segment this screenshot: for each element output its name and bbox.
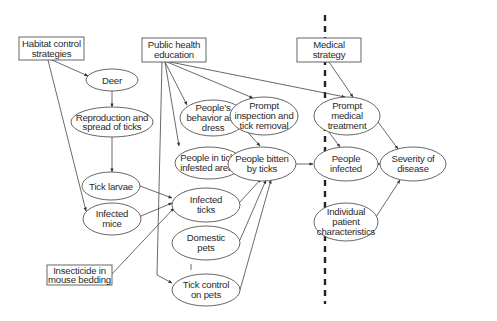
node-label: treatment: [328, 120, 367, 131]
node-tick-larvae: Tick larvae: [82, 172, 140, 200]
node-label: on pets: [191, 289, 221, 300]
edge-patient-severity: [376, 180, 400, 217]
node-label: characteristics: [317, 226, 376, 237]
node-habitat-control: Habitat control strategies: [19, 37, 84, 60]
node-label: Deer: [102, 75, 123, 86]
edge-public-infested: [165, 62, 179, 146]
node-label: pets: [197, 242, 215, 253]
node-label: strategies: [32, 48, 72, 59]
node-people-infected: People infected: [314, 147, 378, 181]
node-label: by ticks: [247, 163, 278, 174]
edge-public-inspection: [167, 62, 253, 98]
node-label: spread of ticks: [83, 121, 142, 132]
node-patient-characteristics: Individual patient characteristics: [314, 203, 378, 241]
node-label: strategy: [313, 49, 346, 60]
node-label: disease: [397, 163, 429, 174]
edge-habitat-deer: [52, 60, 88, 76]
node-label: mouse bedding: [48, 274, 111, 285]
edge-pets-bitten: [240, 180, 266, 240]
node-label: tick removal: [240, 120, 289, 131]
node-deer: Deer: [86, 69, 138, 91]
edge-mice-infected-ticks: [141, 203, 172, 216]
node-label: education: [154, 49, 194, 60]
edge-public-tick-control: [157, 62, 172, 283]
node-public-health-education: Public health education: [142, 38, 206, 62]
node-domestic-pets: Domestic pets: [172, 226, 240, 260]
edge-public-medical: [170, 62, 345, 97]
node-severity: Severity of disease: [380, 147, 446, 181]
node-label: ticks: [197, 204, 216, 215]
node-infected-ticks: Infected ticks: [172, 188, 240, 222]
edge-larvae-infected-ticks: [140, 186, 172, 198]
node-label: Tick larvae: [89, 181, 133, 192]
node-insecticide: Insecticide in mouse bedding: [47, 265, 112, 285]
node-prompt-medical: Prompt medical treatment: [314, 97, 380, 135]
node-tick-control-pets: Tick control on pets: [172, 274, 240, 306]
node-people-bitten: People bitten by ticks: [228, 147, 296, 181]
edge-habitat-mice: [48, 60, 86, 211]
node-label: infected: [330, 163, 362, 174]
node-label: dress: [202, 122, 225, 133]
node-label: mice: [102, 218, 121, 229]
causal-diagram: Habitat control strategies Public health…: [0, 0, 497, 321]
node-reproduction: Reproduction and spread of ticks: [71, 107, 153, 137]
edge-medical-prompt: [329, 62, 353, 97]
node-prompt-inspection: Prompt inspection and tick removal: [230, 97, 298, 135]
node-infected-mice: Infected mice: [83, 203, 141, 235]
node-medical-strategy: Medical strategy: [297, 38, 361, 62]
